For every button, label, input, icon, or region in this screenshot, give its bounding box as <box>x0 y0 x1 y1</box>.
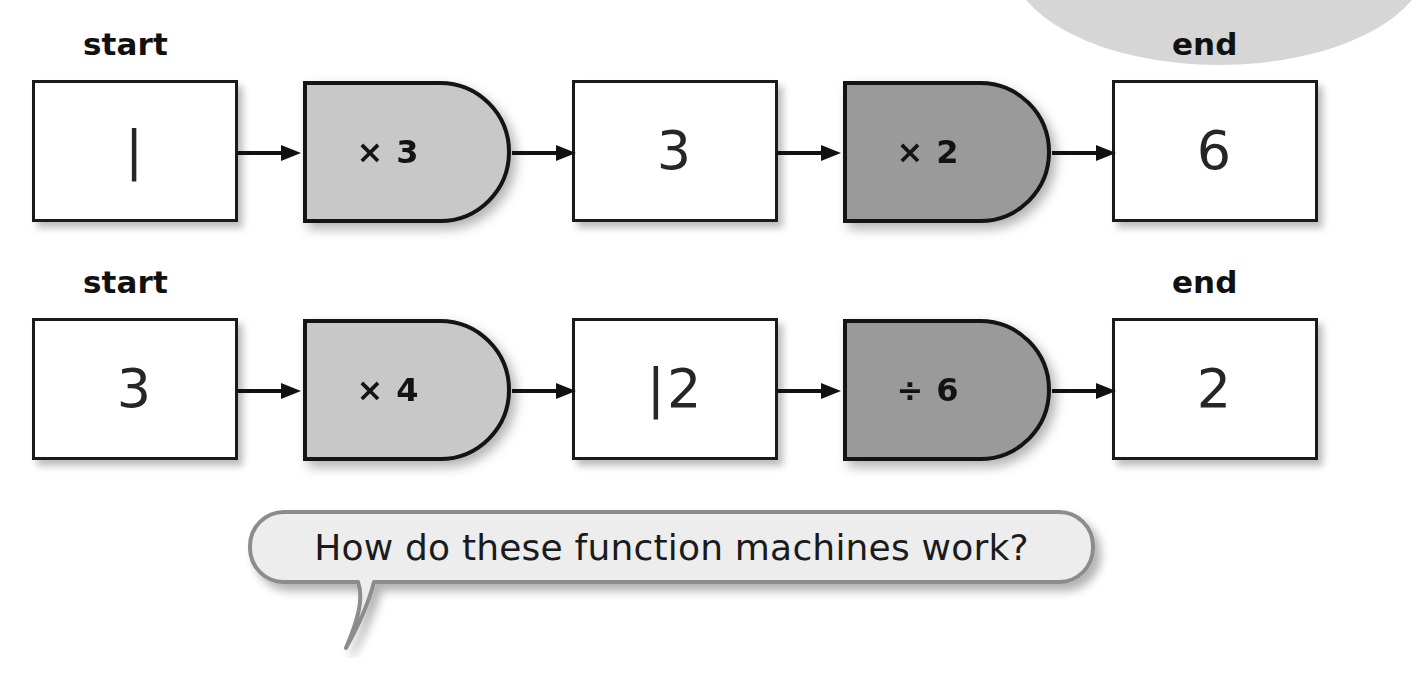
start-label-row-1: start <box>83 26 168 62</box>
value-box-text: 6 <box>1197 124 1233 178</box>
flow-arrow-icon <box>1052 144 1118 162</box>
value-box: 6 <box>1112 80 1318 222</box>
start-label-row-2: start <box>83 264 168 300</box>
value-box: |2 <box>572 318 778 460</box>
function-machine-chain-2: start end 3 × 4 |2 <box>0 258 1359 458</box>
value-box-text: |2 <box>647 362 704 416</box>
value-box: | <box>32 80 238 222</box>
flow-arrow-icon <box>1052 382 1118 400</box>
value-box-text: 2 <box>1197 362 1233 416</box>
speech-bubble: How do these function machines work? <box>246 508 1116 658</box>
function-machine: × 2 <box>842 80 1052 224</box>
flow-arrow-icon <box>512 382 578 400</box>
function-machine-chain-1: start end | × 3 3 <box>0 20 1359 220</box>
flow-arrow-icon <box>777 144 843 162</box>
function-machine: × 3 <box>302 80 512 224</box>
flow-arrow-icon <box>512 144 578 162</box>
function-machine: ÷ 6 <box>842 318 1052 462</box>
value-box: 3 <box>572 80 778 222</box>
flow-arrow-icon <box>237 144 303 162</box>
flow-arrow-icon <box>777 382 843 400</box>
value-box-text: | <box>125 124 145 178</box>
end-label-row-1: end <box>1172 26 1238 62</box>
value-box-text: 3 <box>657 124 693 178</box>
function-machine: × 4 <box>302 318 512 462</box>
value-box-text: 3 <box>117 362 153 416</box>
flow-arrow-icon <box>237 382 303 400</box>
value-box: 3 <box>32 318 238 460</box>
end-label-row-2: end <box>1172 264 1238 300</box>
value-box: 2 <box>1112 318 1318 460</box>
